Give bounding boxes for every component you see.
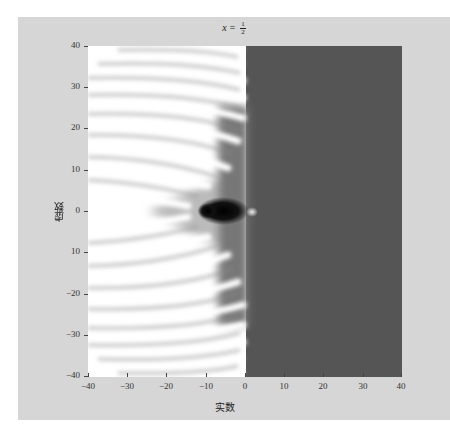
plot-area: [88, 46, 402, 377]
fraction-denominator: 2: [240, 29, 246, 36]
x-tick-mark: [363, 373, 364, 377]
x-tick-mark: [206, 373, 207, 377]
y-tick-label: −20: [52, 288, 80, 298]
y-tick-mark: [84, 128, 88, 129]
y-tick-mark: [84, 170, 88, 171]
title-variable: x =: [222, 22, 236, 33]
y-axis-label: 虚数: [52, 202, 67, 222]
x-tick-mark: [127, 373, 128, 377]
y-tick-mark: [84, 294, 88, 295]
figure-panel: x = 1 2: [18, 17, 450, 420]
y-tick-label: 10: [52, 246, 80, 256]
y-tick-label: 10: [52, 164, 80, 174]
x-tick-label: 30: [348, 381, 378, 391]
x-tick-mark: [88, 373, 89, 377]
y-tick-mark: [84, 252, 88, 253]
x-axis-label: 实数: [9, 399, 441, 414]
x-tick-label: 20: [308, 381, 338, 391]
x-tick-mark: [166, 373, 167, 377]
y-tick-label: −40: [52, 370, 80, 380]
chart-title: x = 1 2: [18, 21, 450, 36]
y-tick-mark: [84, 335, 88, 336]
y-tick-label: 30: [52, 81, 80, 91]
x-tick-label: 10: [269, 381, 299, 391]
x-tick-label: −20: [151, 381, 181, 391]
y-tick-mark: [84, 46, 88, 47]
title-fraction: 1 2: [240, 21, 246, 36]
x-tick-label: 40: [386, 381, 416, 391]
x-tick-mark: [284, 373, 285, 377]
x-tick-label: −40: [73, 381, 103, 391]
x-tick-mark: [401, 373, 402, 377]
y-tick-label: 40: [52, 40, 80, 50]
x-tick-label: −10: [191, 381, 221, 391]
x-tick-label: −30: [112, 381, 142, 391]
y-tick-label: −30: [52, 329, 80, 339]
density-plot: [88, 46, 402, 377]
y-tick-mark: [84, 211, 88, 212]
y-tick-mark: [84, 87, 88, 88]
x-tick-mark: [245, 373, 246, 377]
y-tick-label: 20: [52, 122, 80, 132]
x-tick-mark: [323, 373, 324, 377]
x-tick-label: 0: [230, 381, 260, 391]
